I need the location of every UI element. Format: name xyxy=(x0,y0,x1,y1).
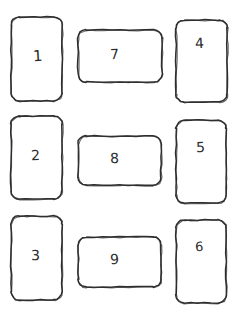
card-label: 7 xyxy=(110,47,119,61)
card-outline[interactable] xyxy=(175,20,228,103)
card-border-stroke xyxy=(175,20,227,103)
card-border-stroke xyxy=(175,120,226,203)
card-border-stroke xyxy=(176,219,227,303)
card-label: 6 xyxy=(195,240,204,253)
card-label: 9 xyxy=(110,252,119,266)
card-label: 4 xyxy=(195,36,205,50)
card-border-stroke xyxy=(78,135,162,185)
card-outline[interactable] xyxy=(77,29,163,82)
card-border-stroke xyxy=(78,237,162,288)
card-border-stroke xyxy=(176,20,228,103)
card-border-stroke xyxy=(78,136,162,186)
card-outline[interactable] xyxy=(176,219,228,304)
card-outline[interactable] xyxy=(78,135,162,186)
card-outline[interactable] xyxy=(175,120,226,204)
diagram-canvas: 123789456 xyxy=(0,0,236,319)
card-outline[interactable] xyxy=(78,237,162,288)
card-label: 3 xyxy=(31,248,40,262)
card-label: 1 xyxy=(33,49,43,64)
card-border-stroke xyxy=(78,237,162,288)
card-label: 2 xyxy=(31,148,40,162)
card-label: 8 xyxy=(110,151,119,165)
card-border-stroke xyxy=(77,29,162,82)
card-border-stroke xyxy=(176,120,227,204)
card-border-stroke xyxy=(176,220,227,304)
card-border-stroke xyxy=(78,30,163,83)
card-label: 5 xyxy=(196,140,205,154)
